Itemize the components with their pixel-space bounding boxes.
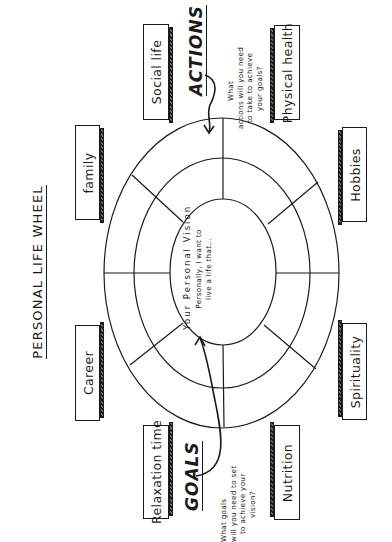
area-box-family[interactable]: family [75, 125, 104, 223]
area-label: Nutrition [280, 443, 295, 501]
area-box-nutrition[interactable]: Nutrition [270, 422, 300, 520]
actions-label: ACTIONS [186, 26, 208, 96]
page-title: PERSONAL LIFE WHEEL [27, 172, 43, 372]
area-box-hobbies[interactable]: Hobbies [338, 127, 367, 225]
vision-heading: Your Personal Vision [175, 210, 189, 330]
vision-prompt: Personally, I want to live a life that..… [194, 229, 216, 309]
goals-label: GOALS [182, 451, 204, 511]
title-text: PERSONAL LIFE WHEEL [30, 185, 47, 359]
area-label: Career [80, 351, 95, 395]
area-label: Relaxation time [149, 420, 164, 524]
actions-question: What actions will you need to take to ac… [226, 29, 268, 129]
area-box-career[interactable]: Career [75, 322, 104, 421]
area-label: Physical health [280, 22, 295, 122]
area-label: Spirituality [347, 335, 362, 407]
area-box-relaxation-time[interactable]: Relaxation time [143, 422, 173, 519]
area-box-social-life[interactable]: Social life [143, 24, 173, 123]
area-box-spirituality[interactable]: Spirituality [338, 320, 367, 420]
area-label: family [80, 152, 95, 193]
goals-question: What goals will you need to set to achie… [219, 446, 261, 542]
area-box-physical-health[interactable]: Physical health [270, 25, 300, 123]
area-label: Social life [149, 40, 164, 104]
area-label: Hobbies [347, 148, 362, 201]
